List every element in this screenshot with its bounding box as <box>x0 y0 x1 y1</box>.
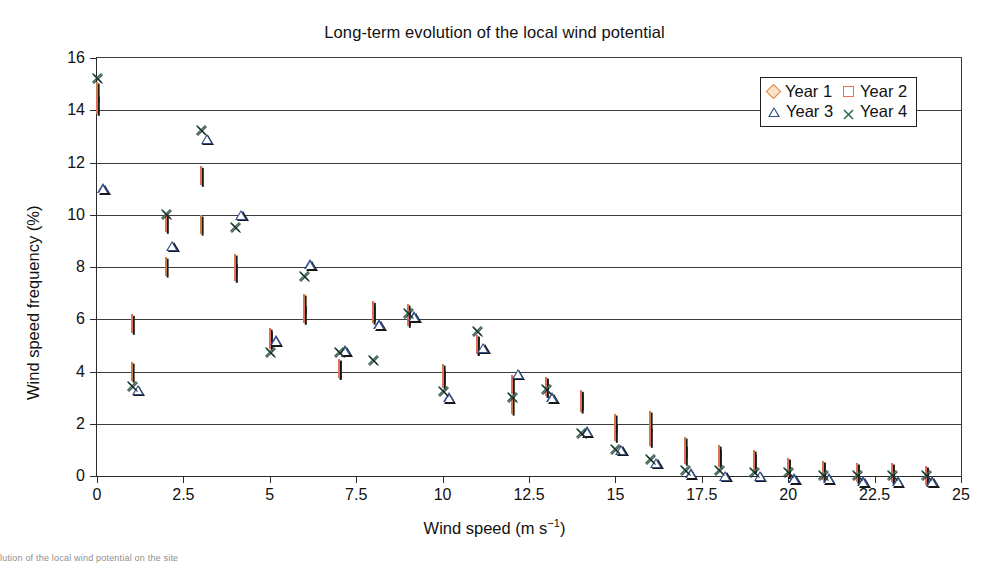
data-point <box>609 441 621 459</box>
gridline <box>97 424 961 425</box>
y-tick-mark <box>90 163 97 164</box>
gridline <box>97 372 961 373</box>
x-tick-mark <box>97 476 98 483</box>
diamond-marker-icon <box>766 84 782 100</box>
x-tick-mark <box>875 476 876 483</box>
x-tick-mark <box>615 476 616 483</box>
data-point <box>402 305 414 323</box>
y-tick-mark <box>90 424 97 425</box>
data-point <box>580 391 582 409</box>
x-tick-label: 17.5 <box>667 486 737 504</box>
x-tick-mark <box>702 476 703 483</box>
y-tick-label: 14 <box>25 101 85 119</box>
square-marker-icon <box>843 86 854 97</box>
y-tick-label: 12 <box>25 154 85 172</box>
gridline <box>97 319 961 320</box>
wind-potential-figure: Long-term evolution of the local wind po… <box>0 0 989 564</box>
data-point <box>575 425 587 443</box>
x-tick-label: 2.5 <box>148 486 218 504</box>
x-tick-label: 5 <box>235 486 305 504</box>
legend-item-year-3[interactable]: Year 3 <box>768 102 833 121</box>
gridline <box>97 215 961 216</box>
x-tick-mark <box>356 476 357 483</box>
data-point <box>644 451 656 469</box>
x-tick-label: 25 <box>926 486 989 504</box>
data-point <box>437 383 449 401</box>
data-point <box>920 467 932 485</box>
x-tick-label: 10 <box>408 486 478 504</box>
x-tick-mark <box>443 476 444 483</box>
data-point <box>131 315 133 333</box>
x-tick-mark <box>529 476 530 483</box>
data-point <box>471 323 483 341</box>
gridline <box>97 267 961 268</box>
chart-title: Long-term evolution of the local wind po… <box>0 23 989 42</box>
gridline <box>97 163 961 164</box>
data-point <box>506 389 518 407</box>
x-tick-mark <box>183 476 184 483</box>
x-tick-label: 22.5 <box>840 486 910 504</box>
y-tick-label: 16 <box>25 49 85 67</box>
data-point <box>782 464 794 482</box>
data-point <box>540 381 552 399</box>
legend-label: Year 2 <box>860 82 907 101</box>
legend-item-year-1[interactable]: Year 1 <box>768 82 833 101</box>
y-tick-mark <box>90 476 97 477</box>
legend-item-year-2[interactable]: Year 2 <box>843 82 907 101</box>
y-tick-mark <box>90 319 97 320</box>
data-point <box>886 467 898 485</box>
y-tick-mark <box>90 267 97 268</box>
y-axis-title: Wind speed frequency (%) <box>24 206 43 400</box>
data-point <box>817 467 829 485</box>
data-point <box>851 467 863 485</box>
data-point <box>679 462 691 480</box>
data-point <box>96 96 98 114</box>
legend-item-year-4[interactable]: Year 4 <box>843 102 907 121</box>
data-point <box>367 352 379 370</box>
x-axis-title-main: Wind speed (m s <box>424 519 548 537</box>
x-axis-title-tail: ) <box>560 519 566 537</box>
data-point <box>264 344 276 362</box>
legend-label: Year 1 <box>785 82 832 101</box>
x-tick-mark <box>270 476 271 483</box>
data-point <box>303 305 305 323</box>
y-tick-mark <box>90 215 97 216</box>
data-point <box>649 428 651 446</box>
x-tick-label: 20 <box>753 486 823 504</box>
data-point <box>748 464 760 482</box>
data-point <box>91 70 103 88</box>
legend: Year 1 Year 2 Year 3 Year 4 <box>760 77 917 127</box>
data-point <box>126 378 138 396</box>
x-tick-label: 0 <box>62 486 132 504</box>
data-point <box>614 423 616 441</box>
x-axis-title: Wind speed (m s−1) <box>0 517 989 538</box>
data-point <box>229 219 241 237</box>
data-point <box>160 206 172 224</box>
y-tick-label: 0 <box>25 467 85 485</box>
triangle-marker-icon <box>768 107 780 117</box>
data-point <box>234 263 236 281</box>
data-point <box>372 302 374 320</box>
data-point <box>165 258 167 276</box>
y-tick-mark <box>90 372 97 373</box>
x-tick-mark <box>961 476 962 483</box>
data-point <box>333 344 345 362</box>
data-point <box>200 216 202 234</box>
data-point <box>713 462 725 480</box>
x-axis-title-exponent: −1 <box>547 517 560 529</box>
data-point <box>338 360 340 378</box>
x-tick-label: 7.5 <box>321 486 391 504</box>
cross-marker-icon <box>843 106 854 117</box>
bottom-caption: lution of the local wind potential on th… <box>0 553 989 564</box>
legend-label: Year 3 <box>786 102 833 121</box>
data-point <box>200 167 202 185</box>
x-tick-label: 15 <box>580 486 650 504</box>
x-tick-label: 12.5 <box>494 486 564 504</box>
y-tick-mark <box>90 58 97 59</box>
y-tick-label: 2 <box>25 415 85 433</box>
data-point <box>195 122 207 140</box>
legend-label: Year 4 <box>860 102 907 121</box>
data-point <box>298 268 310 286</box>
